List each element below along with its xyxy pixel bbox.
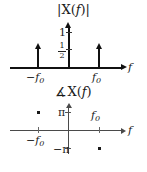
magnitude-y-label-half: 1 2 [56, 42, 68, 60]
magnitude-title-bar-right: | [86, 2, 90, 17]
magnitude-y-tick-one [66, 32, 72, 33]
phase-x-tick-positive-f0 [99, 127, 100, 133]
phase-y-label-negative-pi: −π [53, 144, 69, 155]
magnitude-plot: |X(f)| f 1 1 2 −f0 f0 [0, 0, 147, 90]
magnitude-x-label-positive-f0: f0 [92, 72, 101, 85]
magnitude-title-func: X( [61, 2, 75, 17]
phase-point-negative-f0 [37, 111, 40, 114]
phase-x-axis-line [10, 130, 122, 131]
magnitude-half-denominator: 2 [56, 52, 68, 60]
magnitude-y-axis-line [68, 28, 70, 68]
magnitude-x-label-negative-f0-text: −f [26, 71, 39, 84]
phase-x-axis-label: f [128, 125, 132, 136]
magnitude-half-numerator: 1 [56, 42, 68, 50]
magnitude-impulse-negative-f0-arrowhead [35, 43, 41, 49]
phase-y-label-positive-pi: π [58, 107, 65, 118]
magnitude-x-axis-label: f [128, 62, 132, 73]
phase-plot-title: ∡X(f) [0, 84, 147, 99]
magnitude-x-axis-line [10, 67, 122, 69]
phase-x-label-positive-f0: f0 [91, 110, 100, 123]
phase-y-tick-positive-pi [65, 112, 71, 113]
magnitude-impulse-positive-f0-stem [98, 49, 100, 68]
magnitude-x-label-negative-f0: −f0 [26, 72, 44, 85]
magnitude-impulse-negative-f0-stem [37, 49, 39, 68]
phase-x-label-negative-f0: −f0 [26, 135, 44, 148]
phase-plot: ∡X(f) f π −π −f0 f0 [0, 84, 147, 172]
magnitude-y-axis-arrowhead [65, 22, 71, 28]
phase-title-func: X( [67, 84, 81, 99]
magnitude-impulse-positive-f0-arrowhead [96, 43, 102, 49]
magnitude-y-label-one: 1 [59, 27, 66, 38]
angle-icon: ∡ [55, 84, 67, 99]
phase-x-label-positive-f0-subscript: 0 [95, 114, 100, 123]
phase-point-positive-f0 [98, 147, 101, 150]
phase-y-axis-arrowhead [66, 103, 72, 108]
phase-x-label-negative-f0-text: −f [26, 134, 39, 147]
magnitude-x-axis-arrowhead [121, 64, 127, 70]
phase-x-axis-arrowhead [121, 128, 126, 134]
spectrum-figure: |X(f)| f 1 1 2 −f0 f0 ∡X(f) [0, 0, 147, 172]
phase-x-tick-negative-f0 [38, 127, 39, 133]
magnitude-plot-title: |X(f)| [0, 2, 147, 17]
phase-x-label-negative-f0-subscript: 0 [39, 139, 44, 148]
phase-title-close: ) [87, 84, 92, 99]
